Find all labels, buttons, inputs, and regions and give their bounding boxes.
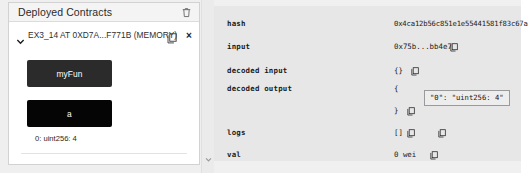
table-row: input 0x75b...bb4e7 xyxy=(214,42,521,58)
call-result-value: 0: uint256: 4 xyxy=(35,134,77,143)
trash-icon[interactable] xyxy=(182,7,191,18)
contract-instance-row[interactable]: EX3_14 AT 0XD7A...F771B (MEMORY) × xyxy=(9,29,199,45)
contract-instance-label: EX3_14 AT 0XD7A...F771B (MEMORY) xyxy=(28,30,177,40)
decoded-output-close-brace: } xyxy=(394,106,398,115)
deployed-contracts-pane: Deployed Contracts EX3_14 AT 0XD7A...F77… xyxy=(0,0,214,173)
row-key-val: val xyxy=(227,150,241,159)
copy-icon[interactable] xyxy=(430,151,438,160)
copy-icon[interactable] xyxy=(167,30,177,41)
chevron-down-icon[interactable] xyxy=(16,32,25,41)
row-value-logs: [] xyxy=(394,128,403,137)
chevron-down-icon[interactable] xyxy=(205,149,212,156)
row-key-hash: hash xyxy=(227,19,246,28)
panel-gutter xyxy=(201,0,214,173)
decoded-output-open-brace: { xyxy=(394,84,398,93)
table-row: val 0 wei xyxy=(214,150,521,166)
card-divider xyxy=(21,153,187,154)
row-key-decoded-output: decoded output xyxy=(227,84,292,93)
row-value-val: 0 wei xyxy=(394,150,416,159)
row-key-decoded-input: decoded input xyxy=(227,66,287,75)
close-icon[interactable]: × xyxy=(186,31,192,41)
table-row: logs [] xyxy=(214,128,521,144)
row-value-decoded-input: {} xyxy=(394,66,403,75)
copy-icon[interactable] xyxy=(407,107,415,116)
deployed-contracts-card: Deployed Contracts EX3_14 AT 0XD7A...F77… xyxy=(8,2,200,165)
row-value-input: 0x75b...bb4e7 xyxy=(394,42,452,51)
function-button-a[interactable]: a xyxy=(27,100,112,127)
copy-icon[interactable] xyxy=(438,129,446,138)
decoded-output-tooltip: "0": "uint256: 4" xyxy=(424,90,510,106)
function-button-myfun[interactable]: myFun xyxy=(27,60,112,87)
row-key-logs: logs xyxy=(227,128,246,137)
copy-icon[interactable] xyxy=(450,43,458,52)
row-value-hash: 0x4ca12b56c851e1e55441581f83c67a xyxy=(394,19,528,28)
copy-icon[interactable] xyxy=(411,67,419,76)
terminal-pane: hash 0x4ca12b56c851e1e55441581f83c67a in… xyxy=(214,0,521,173)
panel-header: Deployed Contracts xyxy=(9,3,199,22)
table-row: decoded input {} xyxy=(214,66,521,82)
row-key-input: input xyxy=(227,42,250,51)
copy-icon[interactable] xyxy=(407,129,415,138)
transaction-details: hash 0x4ca12b56c851e1e55441581f83c67a in… xyxy=(214,6,521,161)
panel-title: Deployed Contracts xyxy=(18,6,112,18)
table-row: hash 0x4ca12b56c851e1e55441581f83c67a xyxy=(214,19,521,35)
